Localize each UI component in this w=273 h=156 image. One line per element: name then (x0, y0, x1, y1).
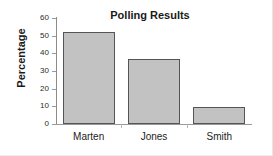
x-tick-label: Jones (121, 131, 186, 142)
y-tick-label: 60 (26, 14, 49, 22)
bar (63, 32, 115, 124)
x-tick-mark (187, 124, 188, 128)
y-tick-label: 10 (26, 102, 49, 110)
y-tick-label: 30 (26, 67, 49, 75)
y-tick-label: 50 (26, 32, 49, 40)
x-axis-line (56, 124, 252, 125)
y-tick-mark (52, 36, 56, 37)
x-tick-label: Marten (56, 131, 121, 142)
y-tick-label: 0 (26, 120, 49, 128)
x-tick-mark (121, 124, 122, 128)
y-tick-mark (52, 71, 56, 72)
chart-screenshot: Percentage Polling Results 0102030405060… (0, 0, 273, 156)
y-axis-line (56, 17, 57, 125)
y-tick-label: 20 (26, 85, 49, 93)
y-tick-mark (52, 18, 56, 19)
bar (128, 59, 180, 124)
y-tick-mark (52, 106, 56, 107)
chart-title: Polling Results (55, 9, 245, 21)
y-tick-mark (52, 53, 56, 54)
y-tick-mark (52, 124, 56, 125)
x-tick-label: Smith (187, 131, 252, 142)
y-tick-label: 40 (26, 49, 49, 57)
y-tick-mark (52, 89, 56, 90)
bar (193, 107, 245, 124)
